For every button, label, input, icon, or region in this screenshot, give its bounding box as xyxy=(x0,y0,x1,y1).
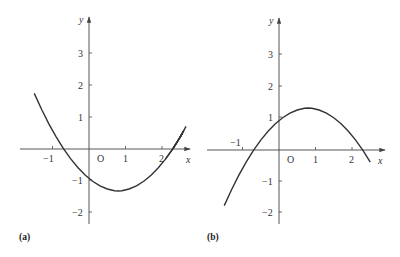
y-tick-label: −2 xyxy=(262,207,273,218)
x-tick-label: −1 xyxy=(43,153,54,164)
y-tick-label: −1 xyxy=(262,176,273,187)
y-axis-label: y xyxy=(268,15,274,26)
y-tick-label: −1 xyxy=(72,175,83,186)
panel-label-b: (b) xyxy=(207,232,219,243)
x-tick-label: 1 xyxy=(313,154,318,165)
x-axis-label: x xyxy=(377,155,383,166)
parabola-curve-a xyxy=(34,93,182,191)
origin-label: O xyxy=(287,154,294,165)
x-tick-label: 2 xyxy=(349,154,354,165)
panel-label-a: (a) xyxy=(19,232,30,243)
figure: −1 1 2 O x y 3 2 1 −1 −2 (a) xyxy=(0,0,400,257)
y-tick-label: 1 xyxy=(78,112,83,123)
y-tick-label: −2 xyxy=(72,207,83,218)
parabola-curve-a-end xyxy=(173,134,182,149)
x-tick-label: −1 xyxy=(230,137,241,148)
y-tick-label: 2 xyxy=(78,80,83,91)
origin-label: O xyxy=(97,153,104,164)
panel-a: −1 1 2 O x y 3 2 1 −1 −2 (a) xyxy=(19,14,191,243)
x-axis-label: x xyxy=(185,154,191,165)
y-tick-label: 1 xyxy=(268,112,273,123)
x-tick-label: 1 xyxy=(123,153,128,164)
y-tick-label: 3 xyxy=(78,48,83,59)
panel-b: −1 1 2 O x y 3 2 1 −1 −2 (b) xyxy=(207,15,385,243)
y-tick-label: 3 xyxy=(268,49,273,60)
y-tick-label: 2 xyxy=(268,81,273,92)
y-axis-label: y xyxy=(78,14,84,25)
